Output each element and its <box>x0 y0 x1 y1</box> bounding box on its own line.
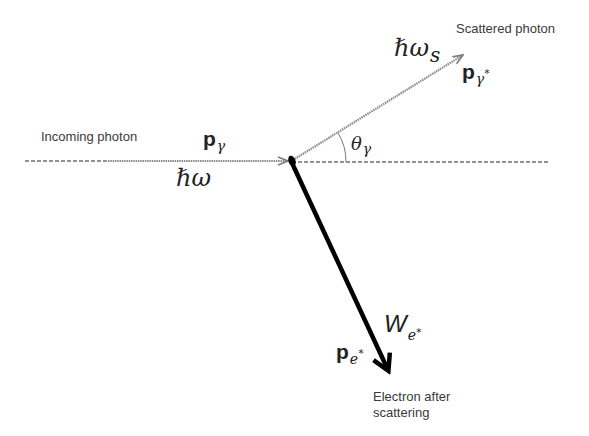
p-gamma-symbol: pγ <box>203 127 225 151</box>
p-e-star-symbol: pe* <box>336 340 364 364</box>
theta-gamma-symbol: θγ <box>351 133 371 154</box>
electron-after-label-line2: scattering <box>373 405 429 421</box>
theta-angle-arc <box>338 133 346 162</box>
w-e-star-symbol: We* <box>384 310 421 338</box>
scattered-photon-label: Scattered photon <box>456 21 555 37</box>
scattered-photon-arrow <box>293 55 463 160</box>
p-gamma-star-symbol: pγ* <box>462 60 490 84</box>
incoming-photon-label: Incoming photon <box>41 129 137 145</box>
hbar-omega-symbol: ℏω <box>176 164 211 192</box>
hbar-omega-s-symbol: ℏωs <box>394 34 440 62</box>
electron-after-label-line1: Electron after <box>373 389 450 405</box>
compton-scattering-diagram <box>0 0 589 436</box>
electron-arrow <box>292 163 388 370</box>
